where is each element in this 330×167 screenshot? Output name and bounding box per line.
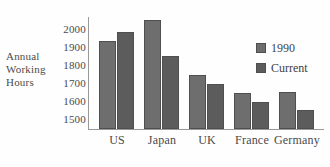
bar-germany-1990: [279, 92, 296, 129]
legend-swatch-icon: [256, 43, 266, 53]
y-tick-label: 1900: [56, 42, 86, 53]
x-axis-line: [88, 129, 324, 130]
bar-us-1990: [99, 41, 116, 129]
y-axis-line: [88, 17, 89, 129]
bar-japan-1990: [144, 20, 161, 129]
y-tick-label: 2000: [56, 24, 86, 35]
legend-label: Current: [271, 62, 308, 74]
bar-group: [189, 17, 225, 129]
bar-us-current: [117, 32, 134, 129]
y-axis-tick-labels: 150016001700180019002000: [54, 17, 86, 129]
legend-item-current[interactable]: Current: [256, 62, 308, 74]
x-category-label-germany: Germany: [267, 133, 327, 147]
y-tick-label: 1800: [56, 60, 86, 71]
y-tick-label: 1500: [56, 114, 86, 125]
y-tick-label: 1700: [56, 78, 86, 89]
bar-japan-current: [162, 56, 179, 129]
plot-area: [88, 17, 270, 129]
x-axis-category-labels: USJapanUKFranceGermany: [88, 133, 330, 153]
legend-item-1990[interactable]: 1990: [256, 42, 308, 54]
legend-swatch-icon: [256, 63, 266, 73]
y-tick-label: 1600: [56, 96, 86, 107]
bar-france-1990: [234, 93, 251, 129]
bar-germany-current: [297, 110, 314, 129]
bar-france-current: [252, 102, 269, 129]
bar-uk-1990: [189, 75, 206, 129]
bar-chart: Annual Working Hours 1500160017001800190…: [0, 0, 330, 167]
legend: 1990Current: [256, 42, 308, 82]
bar-uk-current: [207, 84, 224, 129]
legend-label: 1990: [271, 42, 295, 54]
bar-group: [99, 17, 135, 129]
bar-group: [144, 17, 180, 129]
